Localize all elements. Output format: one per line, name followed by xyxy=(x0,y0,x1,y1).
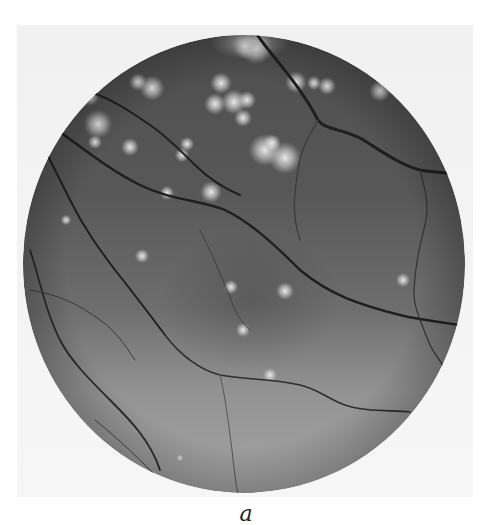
panel-label: a xyxy=(0,503,492,525)
